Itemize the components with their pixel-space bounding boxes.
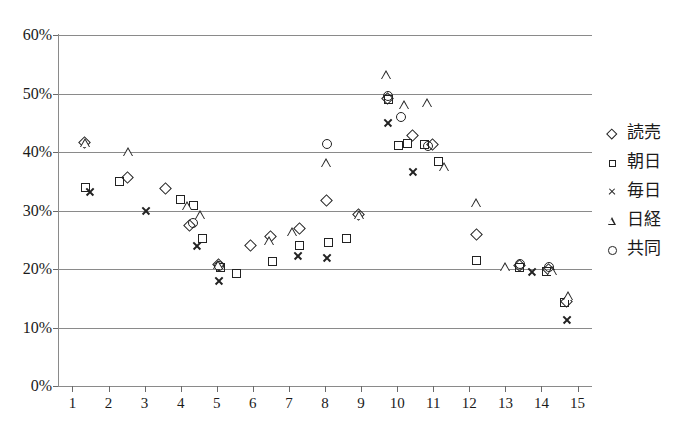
x-tick-label: 10	[384, 395, 410, 411]
x-tick-mark	[253, 386, 254, 392]
gridline-40%	[58, 152, 592, 153]
legend-item-日経[interactable]: 日経	[612, 207, 673, 236]
legend-label: 読売	[627, 122, 661, 144]
x-tick-mark	[181, 386, 182, 392]
gridline-30%	[58, 211, 592, 212]
x-tick-label: 14	[528, 395, 554, 411]
x-tick-mark	[578, 386, 579, 392]
legend-item-読売[interactable]: 読売	[612, 120, 673, 149]
y-tick-label: 50%	[0, 86, 52, 102]
x-tick-label: 2	[96, 395, 122, 411]
x-tick-label: 11	[420, 395, 446, 411]
legend-label: 朝日	[627, 151, 661, 173]
plot-area	[58, 35, 592, 386]
x-tick-mark	[109, 386, 110, 392]
y-tick-label: 20%	[0, 261, 52, 277]
x-tick-label: 15	[565, 395, 591, 411]
legend-label: 日経	[627, 209, 661, 231]
chart-legend: 読売朝日毎日日経共同	[612, 120, 673, 265]
x-tick-label: 9	[348, 395, 374, 411]
x-tick-label: 4	[168, 395, 194, 411]
y-tick-label: 10%	[0, 320, 52, 336]
x-tick-label: 13	[492, 395, 518, 411]
x-tick-mark	[397, 386, 398, 392]
x-tick-mark	[361, 386, 362, 392]
x-tick-mark	[541, 386, 542, 392]
x-tick-label: 8	[312, 395, 338, 411]
x-tick-mark	[433, 386, 434, 392]
legend-item-朝日[interactable]: 朝日	[612, 149, 673, 178]
gridline-50%	[58, 94, 592, 95]
gridline-10%	[58, 328, 592, 329]
x-tick-mark	[217, 386, 218, 392]
y-tick-label: 0%	[0, 378, 52, 394]
y-tick-label: 30%	[0, 203, 52, 219]
x-tick-label: 1	[59, 395, 85, 411]
x-tick-mark	[469, 386, 470, 392]
x-tick-mark	[505, 386, 506, 392]
figure-caption	[0, 432, 673, 446]
y-tick-label: 60%	[0, 27, 52, 43]
legend-label: 毎日	[627, 180, 661, 202]
y-tick-label: 40%	[0, 144, 52, 160]
legend-label: 共同	[627, 238, 661, 260]
legend-item-共同[interactable]: 共同	[612, 236, 673, 265]
scatter-chart: 0%10%20%30%40%50%60% 1234567891011121314…	[0, 0, 673, 446]
y-axis-tick-labels: 0%10%20%30%40%50%60%	[0, 0, 52, 446]
gridline-20%	[58, 269, 592, 270]
x-tick-label: 3	[132, 395, 158, 411]
x-tick-mark	[72, 386, 73, 392]
x-tick-label: 12	[456, 395, 482, 411]
gridline-60%	[58, 35, 592, 36]
x-tick-label: 7	[276, 395, 302, 411]
x-tick-mark	[289, 386, 290, 392]
x-tick-label: 5	[204, 395, 230, 411]
x-tick-label: 6	[240, 395, 266, 411]
x-tick-mark	[325, 386, 326, 392]
legend-item-毎日[interactable]: 毎日	[612, 178, 673, 207]
x-tick-mark	[145, 386, 146, 392]
